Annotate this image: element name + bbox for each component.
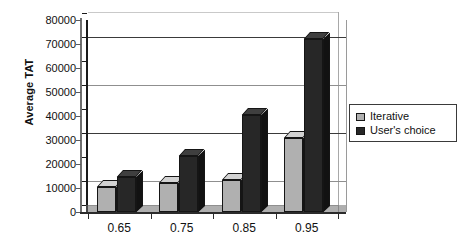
x-axis-tick xyxy=(276,212,277,219)
legend-swatch-users-choice-icon xyxy=(356,127,365,135)
bar-face xyxy=(97,187,116,212)
bar-chart: Average TAT 0100002000030000400005000060… xyxy=(0,0,462,250)
legend-label-iterative: Iterative xyxy=(370,111,409,122)
x-axis-tick xyxy=(338,212,339,219)
bar-side xyxy=(136,171,143,212)
bar-side xyxy=(323,33,330,212)
bar-face xyxy=(179,156,198,212)
x-axis-tick-label: 0.85 xyxy=(233,221,256,235)
bar-face xyxy=(304,39,323,212)
bar-iterative-0-65 xyxy=(97,187,116,212)
bar-face xyxy=(117,177,136,212)
x-axis-tick-label: 0.75 xyxy=(170,221,193,235)
bar-userschoice-0-85 xyxy=(242,115,261,212)
chart-legend: Iterative User's choice xyxy=(349,104,457,142)
legend-label-users-choice: User's choice xyxy=(370,125,436,136)
bar-face xyxy=(159,183,178,212)
bar-userschoice-0-95 xyxy=(304,39,323,212)
bar-face xyxy=(284,138,303,212)
bar-face xyxy=(242,115,261,212)
x-axis-tick xyxy=(213,212,214,219)
bar-face xyxy=(222,180,241,212)
bar-iterative-0-75 xyxy=(159,183,178,212)
x-axis-tick xyxy=(151,212,152,219)
bar-userschoice-0-65 xyxy=(117,177,136,212)
bar-side xyxy=(261,109,268,212)
x-axis-tick-label: 0.95 xyxy=(295,221,318,235)
legend-item-users-choice: User's choice xyxy=(356,125,451,136)
legend-swatch-iterative-icon xyxy=(356,113,365,121)
x-axis-tick-labels: 0.650.750.850.95 xyxy=(0,221,462,241)
x-axis-tick-label: 0.65 xyxy=(108,221,131,235)
x-axis-tick xyxy=(88,212,89,219)
bar-iterative-0-95 xyxy=(284,138,303,212)
bar-side xyxy=(198,149,205,212)
bar-userschoice-0-75 xyxy=(179,156,198,212)
bar-iterative-0-85 xyxy=(222,180,241,212)
legend-item-iterative: Iterative xyxy=(356,111,451,122)
